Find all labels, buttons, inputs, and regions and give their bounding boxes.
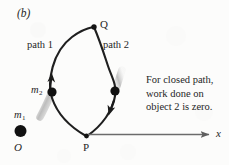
panel-label: (b) bbox=[17, 8, 30, 20]
mass-label-m1-subscript: 1 bbox=[22, 114, 26, 122]
point-label-origin: O bbox=[14, 142, 22, 153]
mass-label-m2-subscript: 2 bbox=[39, 89, 43, 97]
object-2-marker-right bbox=[110, 86, 119, 95]
mass-label-m2-symbol: m bbox=[31, 84, 39, 95]
caption-line-3: object 2 is zero. bbox=[146, 100, 229, 114]
path-2-label: path 2 bbox=[103, 40, 129, 51]
path-1-label: path 1 bbox=[27, 40, 53, 51]
object-2-marker-left bbox=[47, 87, 56, 96]
figure-caption-note: For closed path, work done on object 2 i… bbox=[146, 73, 229, 114]
point-label-q: Q bbox=[100, 19, 108, 30]
caption-line-2: work done on bbox=[146, 87, 229, 101]
path-1-curve bbox=[50, 27, 93, 136]
mass-label-m1-symbol: m bbox=[14, 109, 22, 120]
object-1-marker bbox=[15, 125, 27, 137]
physics-figure-panel-b: (b) Q P O path 1 path 2 m2 m1 x For clos… bbox=[0, 0, 229, 165]
point-label-p: P bbox=[83, 142, 89, 153]
mass-label-m2: m2 bbox=[31, 85, 42, 96]
direction-arrow-path-2 bbox=[108, 100, 116, 116]
caption-line-1: For closed path, bbox=[146, 73, 229, 87]
direction-arrow-path-1 bbox=[47, 73, 55, 90]
x-axis-label: x bbox=[216, 128, 221, 139]
point-q-marker bbox=[91, 24, 96, 29]
mass-label-m1: m1 bbox=[14, 110, 25, 121]
